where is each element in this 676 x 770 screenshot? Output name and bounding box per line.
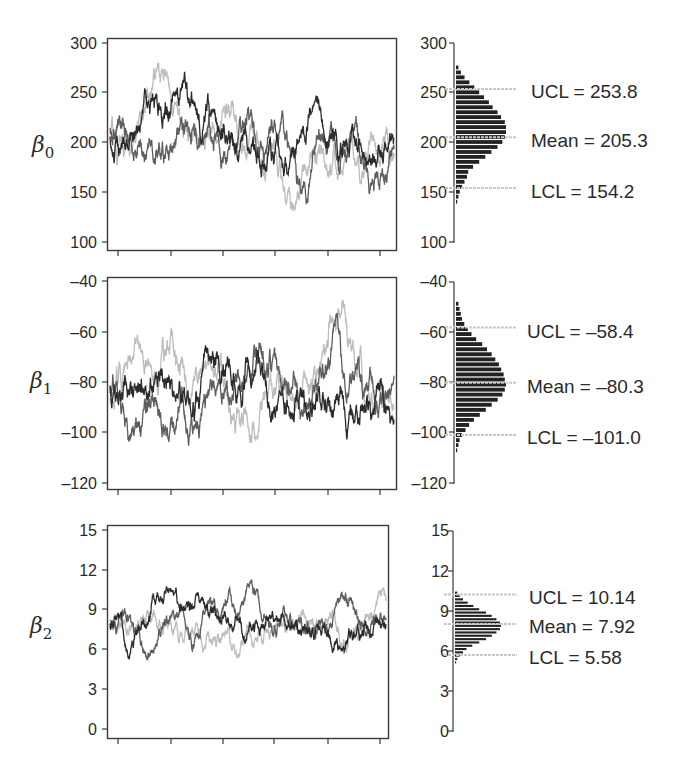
svg-text:–100: –100 (61, 424, 97, 441)
histogram-bar (456, 302, 458, 306)
svg-text:9: 9 (88, 601, 97, 618)
histogram-bar (456, 120, 505, 124)
histogram-bar (455, 605, 473, 607)
histogram-bar (455, 598, 463, 600)
histogram-bar (455, 648, 467, 650)
histogram-bar (456, 322, 464, 326)
histogram-bar (455, 618, 496, 620)
histogram-bar (456, 347, 487, 351)
trace-lines-beta0 (110, 63, 394, 211)
histogram-bar (456, 368, 501, 372)
histogram-bar (456, 105, 493, 109)
trace-panel-beta1: β1 –40 –60 –80 –100 –120 (29, 273, 397, 495)
histogram-bar (455, 612, 486, 614)
histogram-bar (456, 443, 458, 447)
histogram-bar (455, 631, 496, 633)
histogram-bar (455, 602, 468, 604)
histogram-bar (456, 418, 474, 422)
lcl-label-beta1: LCL = –101.0 (527, 427, 641, 448)
svg-text:–80: –80 (420, 374, 447, 391)
reference-lines-beta2 (444, 595, 517, 656)
histogram-bar (455, 592, 457, 594)
svg-text:–40: –40 (70, 273, 97, 290)
histogram-bars-beta1 (456, 302, 506, 452)
hist-y-axis-beta2: 15 12 9 6 3 0 (431, 522, 449, 740)
stats-labels-beta2: UCL = 10.14 Mean = 7.92 LCL = 5.58 (529, 587, 636, 668)
svg-text:–80: –80 (70, 374, 97, 391)
trace-lines-beta2 (110, 579, 386, 660)
trace-y-axis-beta0: 300 250 200 150 100 (70, 35, 97, 251)
histogram-bar (456, 378, 505, 382)
svg-text:–60: –60 (420, 324, 447, 341)
svg-text:250: 250 (420, 84, 447, 101)
chain-line (110, 108, 394, 204)
histogram-bars-beta0 (456, 66, 506, 204)
histogram-bar (455, 641, 479, 643)
histogram-bar (456, 373, 504, 377)
histogram-bar (456, 337, 476, 341)
svg-text:0: 0 (440, 723, 449, 740)
svg-text:12: 12 (79, 562, 97, 579)
svg-text:6: 6 (440, 643, 449, 660)
svg-text:200: 200 (70, 134, 97, 151)
histogram-bar (456, 393, 502, 397)
histogram-bar (456, 388, 505, 392)
histogram-panel-beta2: 15 12 9 6 3 0 UCL = 10.14 Mean = 7.92 LC… (431, 522, 636, 740)
histogram-bar (456, 190, 460, 194)
svg-text:100: 100 (420, 234, 447, 251)
histogram-bar (455, 645, 472, 647)
mean-label-beta0: Mean = 205.3 (531, 130, 648, 151)
ucl-label-beta2: UCL = 10.14 (529, 587, 636, 608)
param-label-beta2: β2 (29, 613, 52, 643)
svg-text:0: 0 (88, 721, 97, 738)
histogram-bar (456, 130, 506, 134)
histogram-bar (456, 140, 502, 144)
histogram-bar (456, 115, 501, 119)
ucl-label-beta1: UCL = –58.4 (527, 321, 634, 342)
histogram-bar (456, 428, 466, 432)
ucl-label-beta0: UCL = 253.8 (531, 81, 638, 102)
histogram-bar (455, 628, 500, 630)
svg-text:200: 200 (420, 134, 447, 151)
histogram-bar (456, 362, 499, 366)
mean-label-beta1: Mean = –80.3 (527, 376, 644, 397)
stats-labels-beta0: UCL = 253.8 Mean = 205.3 LCL = 154.2 (531, 81, 648, 202)
histogram-bar (456, 357, 495, 361)
svg-text:–60: –60 (70, 324, 97, 341)
svg-text:–40: –40 (420, 273, 447, 290)
svg-text:150: 150 (420, 184, 447, 201)
histogram-bar (456, 125, 506, 129)
histogram-bar (456, 317, 462, 321)
histogram-bar (456, 312, 461, 316)
histogram-bar (456, 180, 465, 184)
svg-text:3: 3 (88, 681, 97, 698)
histogram-bar (455, 635, 492, 637)
svg-text:–100: –100 (411, 424, 447, 441)
lcl-label-beta2: LCL = 5.58 (529, 647, 622, 668)
svg-text:300: 300 (70, 35, 97, 52)
histogram-bar (456, 175, 467, 179)
mcmc-diagnostics-figure: β0 300 250 200 150 100 300 250 200 150 1… (0, 0, 676, 770)
svg-text:–120: –120 (61, 475, 97, 492)
histogram-bar (455, 661, 456, 663)
trace-y-axis-beta2: 15 12 9 6 3 0 (79, 522, 97, 738)
histogram-bar (456, 150, 491, 154)
histogram-bar (456, 80, 469, 84)
svg-text:150: 150 (70, 184, 97, 201)
svg-text:100: 100 (70, 234, 97, 251)
histogram-bar (456, 145, 498, 149)
histogram-bar (456, 423, 469, 427)
hist-y-axis-beta0: 300 250 200 150 100 (420, 35, 447, 251)
svg-text:3: 3 (440, 683, 449, 700)
histogram-bar (456, 332, 472, 336)
histogram-bar (456, 438, 460, 442)
histogram-bar (456, 66, 458, 70)
lcl-label-beta0: LCL = 154.2 (531, 181, 634, 202)
histogram-bar (455, 651, 463, 653)
histogram-panel-beta1: –40 –60 –80 –100 –120 UCL = –58.4 Mean =… (411, 273, 643, 492)
histogram-bar (456, 403, 492, 407)
svg-text:–120: –120 (411, 475, 447, 492)
histogram-bar (456, 413, 480, 417)
histogram-bar (456, 95, 484, 99)
histogram-bar (456, 307, 460, 311)
